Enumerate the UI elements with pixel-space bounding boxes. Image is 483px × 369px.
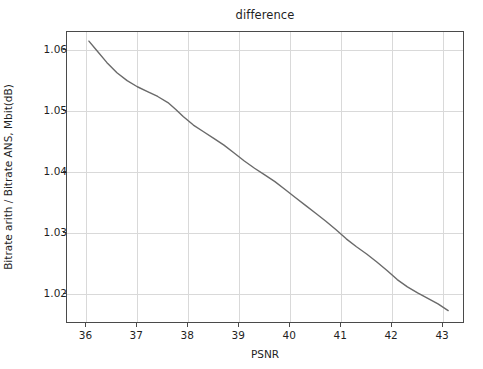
x-tick-label: 37 — [118, 329, 154, 341]
y-tick-label: 1.04 — [21, 165, 67, 177]
plot-area — [66, 31, 464, 323]
x-tick-mark — [289, 323, 290, 327]
difference-curve — [89, 41, 448, 311]
chart-title: difference — [66, 8, 464, 22]
x-tick-mark — [187, 323, 188, 327]
x-tick-mark — [391, 323, 392, 327]
x-tick-mark — [442, 323, 443, 327]
y-axis-label: Bitrate arith / Bitrate ANS, Mbit(dB) — [2, 84, 14, 270]
x-tick-mark — [85, 323, 86, 327]
y-tick-label: 1.03 — [21, 226, 67, 238]
line-series-difference — [67, 32, 464, 323]
x-tick-mark — [136, 323, 137, 327]
figure-canvas: difference 1.021.031.041.051.06 36373839… — [0, 0, 483, 369]
x-tick-mark — [340, 323, 341, 327]
x-axis-label: PSNR — [66, 348, 464, 360]
x-tick-label: 40 — [271, 329, 307, 341]
x-tick-label: 42 — [373, 329, 409, 341]
x-tick-label: 41 — [322, 329, 358, 341]
y-tick-label: 1.05 — [21, 104, 67, 116]
y-axis-label-container: Bitrate arith / Bitrate ANS, Mbit(dB) — [0, 31, 16, 323]
y-tick-label: 1.06 — [21, 43, 67, 55]
x-tick-label: 43 — [424, 329, 460, 341]
x-tick-label: 39 — [220, 329, 256, 341]
x-tick-label: 36 — [67, 329, 103, 341]
x-tick-label: 38 — [169, 329, 205, 341]
x-tick-mark — [238, 323, 239, 327]
y-tick-label: 1.02 — [21, 287, 67, 299]
